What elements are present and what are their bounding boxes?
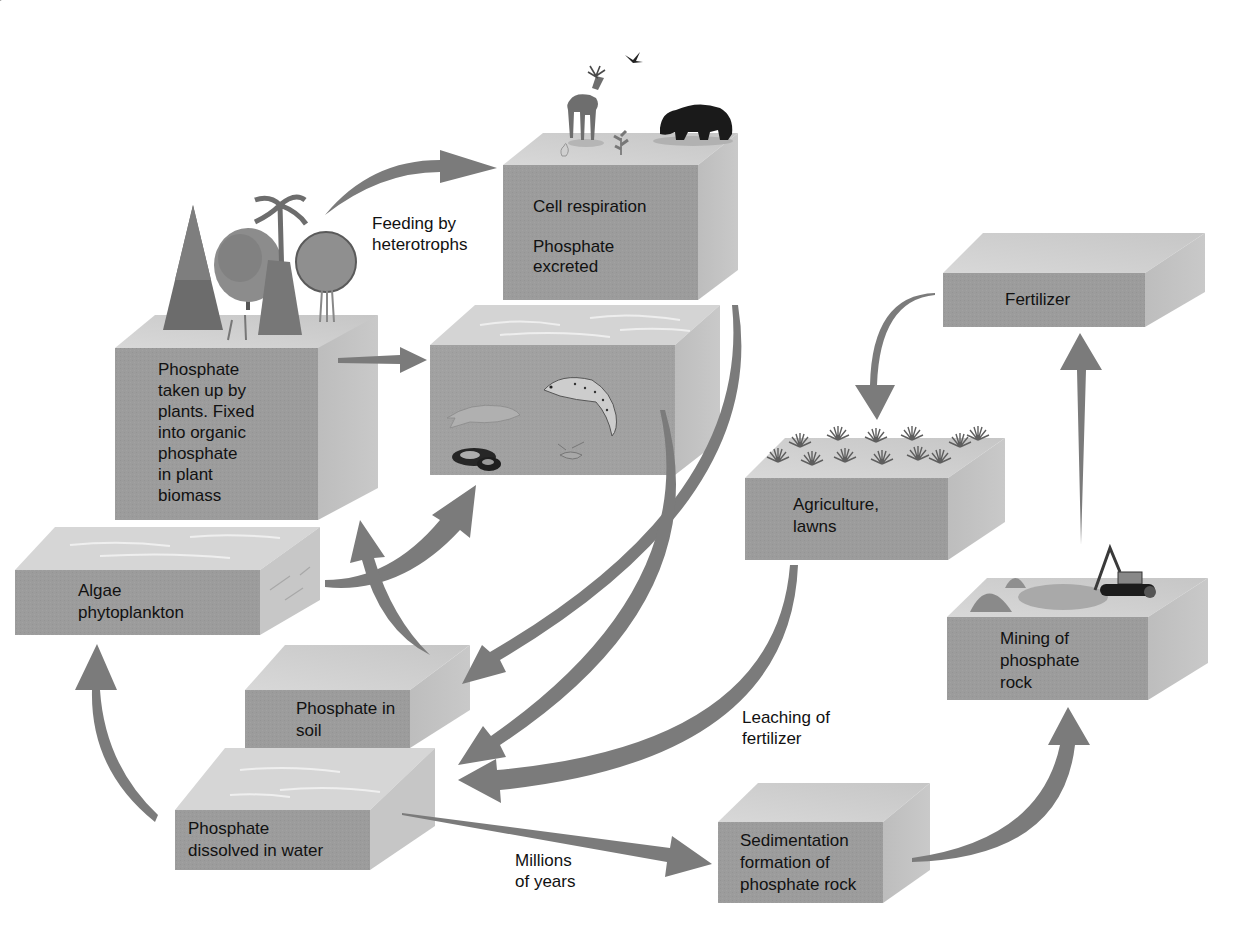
label-algae: Algae phytoplankton [78,580,184,624]
arrow-mining-fertilizer [1060,333,1102,545]
arrow-feeding [325,150,497,215]
block-aquatic [430,305,720,475]
block-fertilizer [943,233,1205,327]
flow-label-millions: Millions of years [515,850,575,892]
label-soil: Phosphate in soil [296,698,395,742]
bear-icon [653,104,733,146]
phosphorus-cycle-diagram: Cell respiration Phosphate excreted Phos… [0,0,1244,936]
label-agriculture: Agriculture, lawns [793,494,879,538]
excavator-icon [1095,548,1156,598]
flow-label-leaching: Leaching of fertilizer [742,707,830,749]
label-mining: Mining of phosphate rock [1000,628,1079,694]
label-fertilizer: Fertilizer [1005,290,1070,310]
label-sedimentation: Sedimentation formation of phosphate roc… [740,830,856,896]
flow-label-feeding: Feeding by heterotrophs [372,213,467,255]
arrow-fertilizer-agriculture [855,293,935,420]
arrow-soil-plants [350,520,430,655]
label-heterotrophs: Cell respiration Phosphate excreted [533,197,646,277]
arrow-sed-mining [912,707,1090,862]
label-dissolved: Phosphate dissolved in water [188,818,323,862]
arrow-dissolved-algae [75,644,158,822]
label-plants: Phosphate taken up by plants. Fixed into… [158,359,254,506]
bird-icon [625,52,643,63]
